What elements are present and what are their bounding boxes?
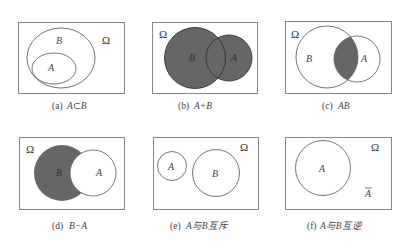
set-a-label: A xyxy=(95,167,103,178)
caption-prefix: (b) xyxy=(178,101,189,112)
set-a-label: A xyxy=(318,163,326,174)
panel-a-subset: B A Ω (a) A⊂B xyxy=(19,23,125,113)
set-b-label: B xyxy=(306,53,312,64)
universe-label: Ω xyxy=(102,34,110,46)
universe-label: Ω xyxy=(240,141,248,153)
panel-c-intersection: B A Ω (c) AB xyxy=(286,22,392,113)
caption-prefix: (c) xyxy=(322,101,333,112)
set-a-label: A xyxy=(167,161,175,172)
set-a-label: A xyxy=(360,53,368,64)
set-b-label: B xyxy=(212,168,218,179)
caption-expr: A与B互逆 xyxy=(319,220,363,231)
caption-prefix: (a) xyxy=(52,101,63,112)
set-a-label: A xyxy=(47,62,55,73)
venn-diagram-figure: B A Ω (a) A⊂B B A Ω (b) A+B B A Ω (c) AB… xyxy=(0,0,406,249)
complement-label: A xyxy=(364,188,372,199)
universe-label: Ω xyxy=(26,143,34,155)
set-a-label: A xyxy=(230,52,238,63)
set-b-label: B xyxy=(189,52,195,63)
caption-expr: A与B互斥 xyxy=(185,221,229,231)
panel-e-mutually-exclusive: A B Ω (e) A与B互斥 xyxy=(154,138,259,233)
set-b-label: B xyxy=(56,167,62,178)
panel-d-difference: B A Ω (d) B−A xyxy=(20,138,125,233)
panel-f-complementary: A Ω A (f) A与B互逆 xyxy=(286,138,392,233)
caption-expr: A+B xyxy=(193,101,212,111)
caption-prefix: (f) xyxy=(307,221,317,232)
caption-prefix: (d) xyxy=(52,221,63,232)
universe-label: Ω xyxy=(159,28,167,40)
universe-label: Ω xyxy=(371,141,379,153)
panel-b-union: B A Ω (b) A+B xyxy=(153,23,258,113)
universe-label: Ω xyxy=(291,28,299,40)
caption-expr: AB xyxy=(337,101,350,111)
caption-expr: B−A xyxy=(69,221,87,231)
set-b-label: B xyxy=(56,35,62,46)
caption-expr: A⊂B xyxy=(66,101,87,111)
caption-prefix: (e) xyxy=(170,221,181,232)
